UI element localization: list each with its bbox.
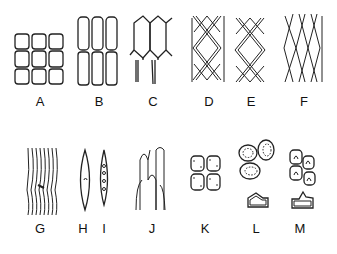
panel-j-cells <box>136 148 165 211</box>
panel-g-cells <box>27 148 57 215</box>
panel-k-cells <box>191 156 220 190</box>
panel-f-cells <box>284 14 322 82</box>
label-f: F <box>300 94 308 109</box>
label-b: B <box>95 94 104 109</box>
panel-h-cell <box>81 150 90 210</box>
panel-e-cells <box>235 18 265 82</box>
label-j: J <box>149 221 156 236</box>
cell-diagram <box>0 0 337 254</box>
label-g: G <box>35 221 45 236</box>
label-c: C <box>148 94 157 109</box>
label-d: D <box>204 94 213 109</box>
label-i: I <box>102 221 106 236</box>
label-l: L <box>252 221 259 236</box>
label-m: M <box>295 221 306 236</box>
panel-b-cells <box>78 17 117 85</box>
panel-l-cells <box>239 140 274 207</box>
panel-c-cells <box>130 16 172 84</box>
label-h: H <box>78 221 87 236</box>
panel-d-cells <box>192 16 224 82</box>
panel-i-cell <box>101 150 108 205</box>
label-k: K <box>201 221 210 236</box>
label-a: A <box>36 94 45 109</box>
label-e: E <box>247 94 256 109</box>
panel-m-cells <box>290 150 315 208</box>
panel-a-cells <box>15 34 63 84</box>
